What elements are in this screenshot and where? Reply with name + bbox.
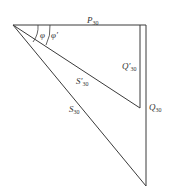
q30-prime-label: Q′30 (122, 61, 136, 72)
p30-label: P30 (86, 15, 99, 26)
phi-label: φ (40, 30, 45, 40)
phi-prime-label: φ′ (51, 30, 59, 40)
q30-label: Q30 (149, 102, 162, 113)
s30-label: S30 (69, 104, 80, 115)
s30-prime-label: S′30 (76, 76, 88, 87)
phi-prime-arc (46, 25, 50, 45)
power-triangle-diagram: P30 Q′30 Q30 S′30 S30 φ φ′ (0, 0, 175, 193)
s30-line (13, 25, 146, 186)
s30-prime-line (13, 25, 140, 108)
